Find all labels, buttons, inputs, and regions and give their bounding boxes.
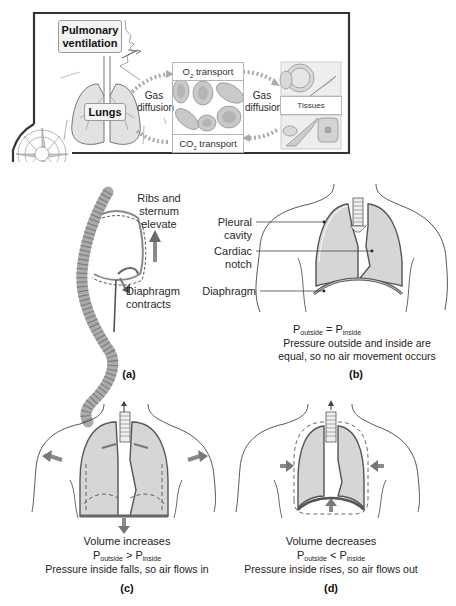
diaphragm-label: Diaphragm [196, 285, 256, 298]
pressure-equation-c: Poutside > Pinside [54, 549, 200, 562]
eq-b-op: = [323, 323, 336, 335]
eq-d-op: < [327, 549, 340, 561]
volume-increases-label: Volume increases [54, 535, 200, 548]
tissues-box: Tissues [280, 96, 342, 115]
pulmonary-ventilation-label: Pulmonary ventilation [58, 20, 122, 53]
overview-panel: Pulmonary ventilation Lungs Gas diffusio… [0, 0, 456, 162]
o2-suffix: transport [193, 66, 233, 77]
eq-c-right: P [135, 549, 142, 561]
lungs-text: Lungs [89, 106, 122, 118]
eq-d-right-sub: inside [347, 555, 365, 562]
eq-b-right-sub: inside [343, 329, 361, 336]
pulmonary-ventilation-text: Pulmonary ventilation [62, 24, 119, 49]
caption-c: Pressure inside falls, so air flows in [34, 563, 220, 576]
pleural-cavity-label: Pleural cavity [204, 216, 252, 242]
panel-c: Volume increases Poutside > Pinside Pres… [0, 400, 228, 600]
panel-c-tag: (c) [112, 582, 142, 594]
o2-prefix: O [183, 66, 190, 77]
lungs-label: Lungs [84, 103, 126, 121]
panel-a-tag: (a) [114, 368, 144, 380]
caption-b: Pressure outside and inside are equal, s… [276, 337, 438, 363]
panel-d: Volume decreases Poutside < Pinside Pres… [228, 400, 456, 600]
panel-d-tag: (d) [316, 582, 346, 594]
gas-diffusion-left-label: Gas diffusion [137, 90, 171, 114]
eq-b-right: P [335, 323, 342, 335]
eq-c-left-sub: outside [100, 555, 123, 562]
co2-transport-box: CO2 transport [172, 134, 244, 153]
eq-d-left-sub: outside [304, 555, 327, 562]
panel-b: Pleural cavity Cardiac notch Diaphragm P… [200, 162, 456, 430]
diaphragm-contracts-label: Diaphragm contracts [126, 285, 186, 311]
gas-diffusion-right-label: Gas diffusion [245, 90, 279, 114]
caption-d: Pressure inside rises, so air flows out [234, 563, 428, 576]
panel-b-tag: (b) [341, 368, 371, 380]
co2-suffix: transport [197, 138, 237, 149]
cardiac-notch-label: Cardiac notch [204, 245, 252, 271]
eq-b-left-sub: outside [300, 329, 323, 336]
eq-d-right: P [339, 549, 346, 561]
o2-transport-box: O2 transport [172, 62, 244, 81]
ribs-sternum-label: Ribs and sternum elevate [136, 192, 182, 231]
panel-a: Ribs and sternum elevate Diaphragm contr… [0, 162, 200, 430]
volume-decreases-label: Volume decreases [258, 535, 404, 548]
eq-c-op: > [123, 549, 136, 561]
rbc-panel-border [172, 81, 244, 134]
pressure-equation-b: Poutside = Pinside [260, 323, 394, 336]
pressure-equation-d: Poutside < Pinside [258, 549, 404, 562]
co2-prefix: CO [179, 138, 193, 149]
eq-c-right-sub: inside [143, 555, 161, 562]
